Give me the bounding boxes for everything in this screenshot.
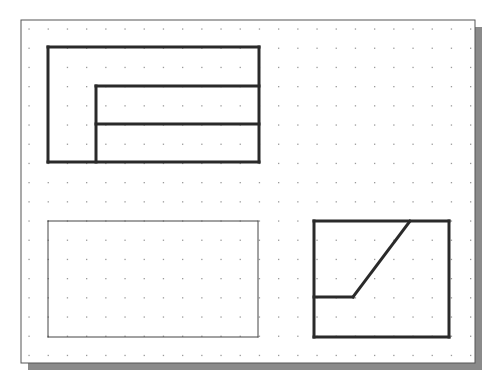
grid-dot [259,201,260,202]
grid-dot [374,240,375,241]
grid-dot [316,86,317,87]
grid-dot [86,28,87,29]
grid-dot [451,278,452,279]
grid-dot [355,182,356,183]
grid-dot [393,355,394,356]
grid-dot [451,220,452,221]
grid-dot [412,316,413,317]
grid-dot [220,201,221,202]
grid-dot [144,240,145,241]
grid-dot [240,278,241,279]
grid-dot [278,105,279,106]
grid-dot [144,182,145,183]
grid-dot [336,259,337,260]
grid-dot [432,297,433,298]
grid-dot [451,297,452,298]
grid-dot [144,297,145,298]
grid-dot [86,278,87,279]
grid-dot [124,316,125,317]
grid-dot [297,105,298,106]
grid-dot [240,297,241,298]
grid-dot [451,201,452,202]
grid-dot [297,48,298,49]
grid-dot [316,144,317,145]
grid-dot [86,86,87,87]
grid-dot [259,240,260,241]
grid-dot [297,67,298,68]
grid-dot [432,278,433,279]
grid-dot [412,259,413,260]
grid-dot [297,144,298,145]
grid-dot [470,297,471,298]
grid-dot [144,259,145,260]
grid-dot [220,355,221,356]
grid-dot [355,201,356,202]
grid-dot [374,355,375,356]
grid-dot [374,259,375,260]
grid-dot [105,201,106,202]
grid-dot [86,105,87,106]
grid-dot [470,355,471,356]
grid-dot [105,278,106,279]
grid-dot [240,67,241,68]
grid-dot [393,105,394,106]
grid-dot [28,201,29,202]
grid-dot [336,67,337,68]
grid-dot [67,259,68,260]
grid-dot [240,182,241,183]
grid-dot [240,355,241,356]
grid-dot [470,86,471,87]
grid-dot [336,86,337,87]
grid-dot [355,105,356,106]
grid-dot [470,48,471,49]
grid-dot [201,144,202,145]
grid-dot [144,278,145,279]
grid-dot [393,163,394,164]
grid-dot [163,144,164,145]
grid-dot [278,278,279,279]
grid-dot [374,182,375,183]
grid-dot [412,67,413,68]
grid-dot [393,259,394,260]
grid-dot [144,67,145,68]
grid-dot [144,201,145,202]
grid-dot [470,163,471,164]
grid-dot [393,201,394,202]
grid-dot [432,355,433,356]
grid-dot [355,124,356,125]
grid-dot [28,259,29,260]
grid-dot [432,86,433,87]
grid-dot [240,28,241,29]
grid-dot [124,297,125,298]
grid-dot [393,67,394,68]
grid-dot [67,86,68,87]
grid-dot [259,182,260,183]
grid-dot [278,297,279,298]
grid-dot [297,259,298,260]
grid-dot [28,278,29,279]
grid-dot [67,201,68,202]
grid-dot [355,48,356,49]
grid-dot [86,124,87,125]
grid-dot [105,144,106,145]
drawing-sheet [21,20,475,363]
grid-dot [86,144,87,145]
grid-dot [259,28,260,29]
grid-dot [259,297,260,298]
grid-dot [182,259,183,260]
grid-dot [432,182,433,183]
grid-dot [86,259,87,260]
grid-dot [182,355,183,356]
grid-dot [432,28,433,29]
grid-dot [374,163,375,164]
grid-dot [201,240,202,241]
grid-dot [316,67,317,68]
grid-dot [124,278,125,279]
grid-dot [412,28,413,29]
grid-dot [412,297,413,298]
grid-dot [336,278,337,279]
grid-dot [259,220,260,221]
grid-dot [451,105,452,106]
grid-dot [259,355,260,356]
grid-dot [297,201,298,202]
